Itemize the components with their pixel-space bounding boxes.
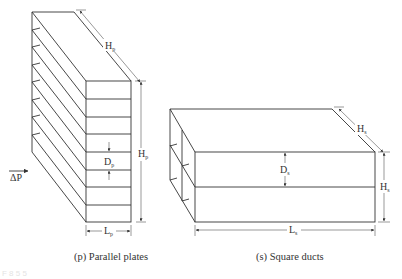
heat-sink-geometry-diagram: Hp Hp Dp Lp ΔP (p) Parallel plat [0,0,402,279]
cropped-figure-number: F 8 5 5 [2,269,27,278]
plate-edges [32,12,86,222]
parallel-plates-figure: Hp Hp Dp Lp ΔP (p) Parallel plat [9,10,150,263]
ls-length-dimension: Ls [195,224,375,236]
dp-label: Dp [104,156,114,168]
hp-depth-dimension: Hp [76,10,146,82]
caption-square-ducts: (s) Square ducts [256,251,324,263]
hs-depth-dimension: Hs [334,107,383,152]
hp-height-dimension: Hp [136,82,150,222]
pressure-drop-indicator: ΔP [9,171,28,183]
lp-length-dimension: Lp [86,225,131,237]
dp-spacing-dimension: Dp [104,142,114,180]
square-ducts-figure: Hs Hs Ds Ls (s) Square ducts [170,107,392,263]
ds-spacing-dimension: Ds [278,153,294,186]
delta-p-label: ΔP [10,172,22,183]
front-plate-lines [86,99,131,205]
hs-height-dimension: Hs [378,152,392,222]
caption-parallel-plates: (p) Parallel plates [74,251,148,263]
